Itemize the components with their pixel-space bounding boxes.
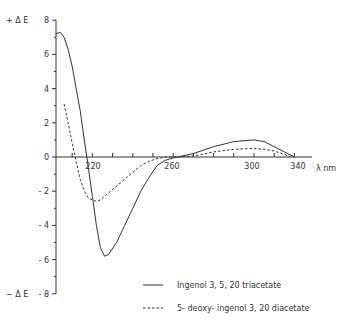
legend: Ingenol 3, 5, 20 triacetate 5- deoxy- in… — [143, 281, 310, 313]
y-tick-label: 0 — [44, 153, 49, 162]
data-series — [56, 32, 294, 256]
y-tick-label: 6 — [44, 50, 49, 59]
y-tick-label: 2 — [44, 119, 49, 128]
y-tick-label: - 6 — [38, 256, 49, 265]
y-tick-label: - 8 — [38, 290, 49, 299]
cd-spectrum-chart: 86420- 2- 4- 6- 8 220260300340 + Δ E − Δ… — [0, 0, 338, 326]
y-tick-label: - 2 — [38, 187, 49, 196]
y-axis-label-top: + Δ E — [6, 16, 28, 25]
x-tick-label: 300 — [244, 162, 259, 171]
series-diacetate-line — [64, 104, 290, 202]
y-tick-label: 4 — [44, 85, 49, 94]
series-triacetate-line — [56, 32, 294, 256]
y-axis-label-bottom: − Δ E — [6, 290, 28, 299]
x-tick-label: 260 — [164, 162, 179, 171]
x-axis-ticks: 220260300340 — [72, 153, 305, 171]
y-axis-ticks: 86420- 2- 4- 6- 8 — [38, 16, 56, 299]
y-tick-label: - 4 — [38, 221, 49, 230]
legend-label-triacetate: Ingenol 3, 5, 20 triacetate — [177, 281, 281, 290]
y-tick-label: 8 — [44, 16, 49, 25]
x-tick-label: 340 — [290, 162, 305, 171]
legend-label-diacetate: 5- deoxy- ingenol 3, 20 diacetate — [177, 304, 310, 313]
x-axis-unit-label: λ nm — [316, 164, 336, 173]
